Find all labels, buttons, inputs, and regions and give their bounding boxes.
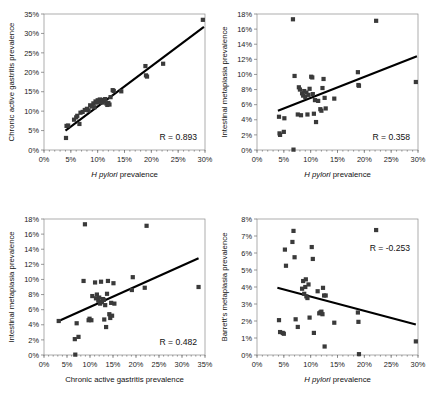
y-tick-label: 18% xyxy=(237,10,252,19)
data-point xyxy=(312,112,316,116)
x-tick-label: 10% xyxy=(303,360,318,369)
chart-panel-br: 0%1%2%3%4%5%6%7%8%0%5%10%15%20%25%30%H p… xyxy=(213,205,426,410)
data-point xyxy=(290,240,294,244)
correlation-annotation: R = -0.253 xyxy=(370,243,411,253)
x-tick-label: 30% xyxy=(198,155,213,164)
x-tick-label: 20% xyxy=(144,155,159,164)
data-point xyxy=(284,264,288,268)
y-tick-label: 15% xyxy=(24,87,39,96)
figure-four-scatter-panels: 0%5%10%15%20%25%30%35%0%5%10%15%20%25%30… xyxy=(0,0,426,411)
y-axis: 0%1%2%3%4%5%6%7%8% xyxy=(241,215,257,360)
y-axis: 0%2%4%6%8%10%12%14%16%18% xyxy=(24,215,44,360)
data-point xyxy=(282,332,286,336)
y-tick-label: 7% xyxy=(241,232,252,241)
data-point xyxy=(307,316,311,320)
data-point xyxy=(196,285,200,289)
data-point xyxy=(57,319,61,323)
y-tick-label: 10% xyxy=(237,70,252,79)
data-point xyxy=(356,70,360,74)
data-point xyxy=(320,86,324,90)
y-tick-label: 2% xyxy=(241,131,252,140)
data-point xyxy=(81,279,85,283)
data-point xyxy=(99,280,103,284)
data-point xyxy=(320,312,324,316)
data-point xyxy=(319,109,323,113)
x-axis-title: H pylori prevalence xyxy=(304,170,371,179)
x-tick-label: 0% xyxy=(39,360,50,369)
x-tick-label: 15% xyxy=(106,360,121,369)
y-tick-label: 35% xyxy=(24,10,39,19)
data-point xyxy=(356,310,360,314)
data-point xyxy=(102,298,106,302)
x-tick-label: 0% xyxy=(252,155,263,164)
data-point xyxy=(86,108,90,112)
y-tick-label: 16% xyxy=(237,25,252,34)
data-point xyxy=(112,302,116,306)
correlation-annotation: R = 0.482 xyxy=(159,337,197,347)
x-tick-label: 15% xyxy=(330,155,345,164)
y-tick-label: 0% xyxy=(241,146,252,155)
data-point xyxy=(278,133,282,137)
data-point xyxy=(294,317,298,321)
data-point xyxy=(292,74,296,78)
data-point xyxy=(316,99,320,103)
data-point xyxy=(145,74,149,78)
y-tick-label: 8% xyxy=(241,85,252,94)
y-tick-label: 3% xyxy=(241,300,252,309)
data-point xyxy=(311,92,315,96)
data-point xyxy=(161,62,165,66)
data-point xyxy=(131,275,135,279)
y-axis: 0%5%10%15%20%25%30%35% xyxy=(24,10,44,155)
x-tick-label: 20% xyxy=(129,360,144,369)
y-tick-label: 12% xyxy=(237,55,252,64)
x-tick-label: 10% xyxy=(83,360,98,369)
y-tick-label: 4% xyxy=(241,283,252,292)
x-axis-title: Chronic active gastritis prevalence xyxy=(65,375,184,384)
data-point xyxy=(83,222,87,226)
y-tick-label: 25% xyxy=(24,49,39,58)
data-point xyxy=(310,245,314,249)
data-point xyxy=(282,130,286,134)
x-tick-label: 25% xyxy=(152,360,167,369)
y-tick-label: 30% xyxy=(24,29,39,38)
data-point xyxy=(277,318,281,322)
data-point xyxy=(66,123,70,127)
scatter-panel-top-left: 0%5%10%15%20%25%30%35%0%5%10%15%20%25%30… xyxy=(0,0,213,205)
x-tick-label: 0% xyxy=(252,360,263,369)
data-point xyxy=(296,325,300,329)
x-tick-label: 10% xyxy=(303,155,318,164)
data-point xyxy=(374,228,378,232)
data-point xyxy=(97,295,101,299)
x-tick-label: 5% xyxy=(278,155,289,164)
data-point xyxy=(105,292,109,296)
data-point xyxy=(90,294,94,298)
data-point xyxy=(111,281,115,285)
x-tick-label: 5% xyxy=(62,360,73,369)
data-point xyxy=(110,314,114,318)
scatter-panel-bottom-left: 0%2%4%6%8%10%12%14%16%18%0%5%10%15%20%25… xyxy=(0,205,213,410)
y-axis-title: Barrett's metaplasia prevalence xyxy=(220,233,229,342)
x-axis: 0%5%10%15%20%25%30% xyxy=(252,150,426,164)
data-point xyxy=(321,77,325,81)
data-point xyxy=(64,136,68,140)
y-axis-title: Chronic active gastritis prevalence xyxy=(7,23,16,142)
data-point xyxy=(103,303,107,307)
data-point xyxy=(282,116,286,120)
data-point xyxy=(305,112,309,116)
data-point xyxy=(77,122,81,126)
y-tick-label: 10% xyxy=(24,107,39,116)
x-axis: 0%5%10%15%20%25%30% xyxy=(252,355,426,369)
data-point xyxy=(108,95,112,99)
x-tick-label: 35% xyxy=(198,360,213,369)
data-point xyxy=(107,102,111,106)
data-point xyxy=(323,344,327,348)
data-point xyxy=(311,257,315,261)
data-point xyxy=(143,286,147,290)
y-tick-label: 20% xyxy=(24,68,39,77)
data-point xyxy=(306,282,310,286)
x-tick-label: 30% xyxy=(411,360,426,369)
x-tick-label: 30% xyxy=(411,155,426,164)
y-tick-label: 4% xyxy=(241,115,252,124)
data-point xyxy=(144,224,148,228)
x-axis: 0%5%10%15%20%25%30%35% xyxy=(39,355,213,369)
